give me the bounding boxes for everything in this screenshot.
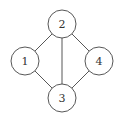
node-4: 4 <box>85 47 113 75</box>
node-label: 2 <box>59 18 66 31</box>
node-label: 1 <box>22 55 29 68</box>
node-2: 2 <box>48 10 76 38</box>
node-label: 3 <box>59 92 66 105</box>
graph-diagram: 1234 <box>0 0 126 121</box>
node-label: 4 <box>96 55 103 68</box>
node-1: 1 <box>11 47 39 75</box>
node-3: 3 <box>48 84 76 112</box>
